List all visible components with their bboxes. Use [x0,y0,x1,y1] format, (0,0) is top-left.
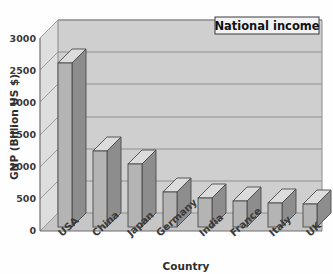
x-axis-title: Country [163,260,210,272]
bar-chart-3d: 0 500 1000 1500 2000 2500 3000 [0,0,333,274]
chart-container: 0 500 1000 1500 2000 2500 3000 [0,0,333,274]
chart-title-label: National income [214,19,319,33]
bar-usa[interactable] [58,49,86,227]
bar-front-face [58,63,72,227]
y-tick-label: 3000 [10,33,37,44]
y-tick-label: 0 [29,225,36,236]
y-axis-title: GNP (Billion US $) [8,74,20,180]
chart-title-box: National income [214,17,319,34]
bar-side-face [72,49,86,227]
y-tick-label: 500 [16,193,36,204]
